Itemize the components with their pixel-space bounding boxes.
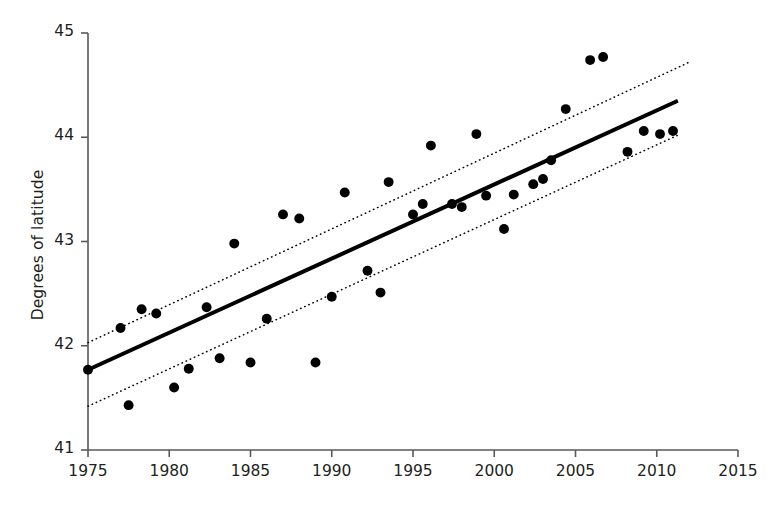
data-point [655,129,665,139]
data-point [151,308,161,318]
x-tick-label: 1975 [58,462,118,480]
data-point [418,199,428,209]
data-point [116,323,126,333]
y-tick-label: 43 [28,231,74,249]
data-point [509,190,519,200]
y-tick-label: 45 [28,22,74,40]
data-point [246,357,256,367]
data-point [169,383,179,393]
axes-group [81,33,738,457]
figure-caption [4,497,774,509]
data-point [83,365,93,375]
x-tick-label: 1995 [383,462,443,480]
data-point [363,266,373,276]
data-point [668,126,678,136]
x-tick-label: 1985 [221,462,281,480]
data-point [457,202,467,212]
data-point [639,126,649,136]
regression-line [88,101,678,370]
x-tick-label: 2000 [464,462,524,480]
data-point [327,292,337,302]
data-point [229,239,239,249]
data-point [623,147,633,157]
data-point [215,353,225,363]
data-point [528,179,538,189]
data-point [447,199,457,209]
data-point [340,188,350,198]
y-tick-label: 42 [28,335,74,353]
x-tick-label: 1980 [139,462,199,480]
data-point [278,209,288,219]
x-tick-label: 2005 [546,462,606,480]
data-point [481,191,491,201]
confidence-band-lower [88,135,678,406]
data-point [561,104,571,114]
x-tick-label: 2015 [708,462,768,480]
data-point [294,214,304,224]
data-point [137,304,147,314]
data-point [426,141,436,151]
data-point [546,155,556,165]
data-point [124,400,134,410]
confidence-band-upper [88,62,689,342]
data-point [499,224,509,234]
data-point [262,314,272,324]
data-point [598,52,608,62]
data-point [538,174,548,184]
regression-line-group [88,101,678,370]
figure: Degrees of latitude 4142434445 197519801… [0,0,779,510]
y-tick-label: 41 [28,439,74,457]
data-point [184,364,194,374]
data-points-group [83,52,678,410]
data-point [311,357,321,367]
data-point [471,129,481,139]
scatter-plot [0,0,779,510]
data-point [202,302,212,312]
x-tick-label: 1990 [302,462,362,480]
data-point [376,288,386,298]
data-point [585,55,595,65]
y-tick-label: 44 [28,126,74,144]
data-point [408,209,418,219]
data-point [384,177,394,187]
x-tick-label: 2010 [627,462,687,480]
